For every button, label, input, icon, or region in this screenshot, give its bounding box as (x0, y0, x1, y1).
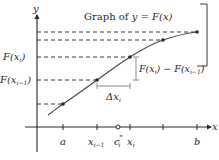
point-xi-1 (95, 78, 99, 82)
tick-label-xi: xi (127, 136, 135, 148)
range-bracket (200, 4, 207, 66)
graph-title: Graph of y = F(x) (84, 11, 173, 22)
tick-label-ci-star: c*i (114, 133, 123, 148)
point-b (195, 30, 199, 34)
y-axis-label: y (32, 3, 39, 14)
x-axis-label: x (212, 121, 218, 132)
tick-label-a: a (60, 136, 66, 147)
delta-x-label: Δxi (105, 91, 121, 103)
label-F-xi-1: F(xi−1) (0, 74, 31, 86)
point-xi (128, 55, 132, 59)
delta-F-label: F(xi) − F(xi−1) (138, 63, 205, 75)
figure-canvas: y x Graph of y = F(x) F(xi) F(xi−1) F(xi… (0, 0, 219, 160)
point-4 (161, 38, 165, 42)
delta-x-bracket (97, 83, 130, 89)
point-a (61, 102, 65, 106)
label-F-xi: F(xi) (2, 51, 25, 63)
ci-star-marker (116, 125, 120, 129)
tick-label-xi-1: xi−1 (88, 136, 104, 148)
tick-label-b: b (194, 136, 200, 147)
